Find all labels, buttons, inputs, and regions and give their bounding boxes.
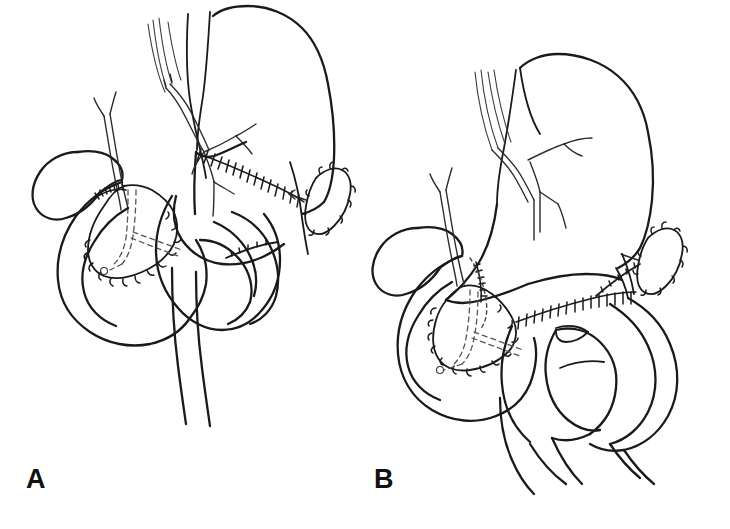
panel-label-a: A bbox=[26, 466, 46, 493]
figure-container: A B bbox=[0, 0, 730, 529]
surgical-illustration bbox=[0, 0, 730, 529]
panel-label-b: B bbox=[374, 466, 394, 493]
